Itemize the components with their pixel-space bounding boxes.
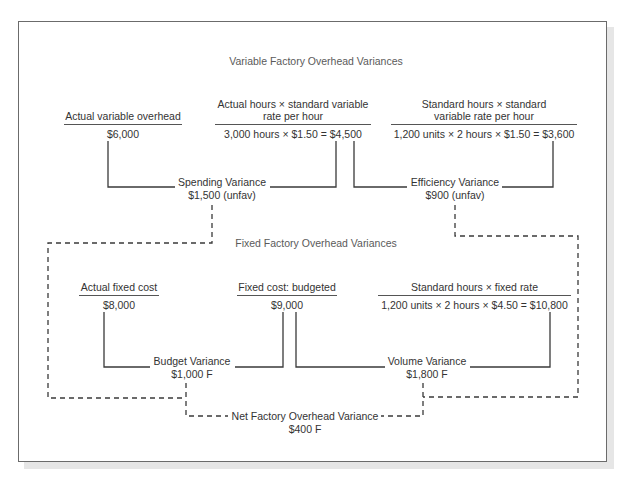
budget-variance-label: Budget Variance [154, 355, 231, 368]
connector-actual-fixed [104, 312, 150, 367]
connector-budget-right [235, 312, 283, 367]
connector-spending-right [270, 141, 336, 187]
connector-volume-right [470, 312, 550, 367]
actual-hours-standard-rate-block: Actual hours × standard variable rate pe… [215, 98, 371, 140]
net-variance-label: Net Factory Overhead Variance [232, 410, 379, 423]
efficiency-variance-label: Efficiency Variance [411, 176, 499, 189]
heading-line-1: Standard hours × standard [391, 98, 577, 110]
actual-hours-standard-rate-value: 3,000 hours × $1.50 = $4,500 [215, 125, 371, 140]
standard-hours-fixed-rate-value: 1,200 units × 2 hours × $4.50 = $10,800 [378, 296, 571, 311]
fixed-cost-budgeted-block: Fixed cost: budgeted $9,000 [237, 281, 337, 311]
volume-variance-amount: $1,800 F [388, 368, 467, 381]
efficiency-variance: Efficiency Variance $900 (unfav) [411, 176, 499, 202]
dashed-budget-path [186, 383, 228, 416]
budget-variance: Budget Variance $1,000 F [154, 355, 231, 381]
variable-section-title: Variable Factory Overhead Variances [229, 55, 403, 67]
connector-efficiency-left [354, 141, 407, 187]
fixed-cost-budgeted-heading: Fixed cost: budgeted [237, 281, 337, 296]
actual-fixed-cost-value: $8,000 [79, 296, 159, 311]
actual-hours-standard-rate-heading: Actual hours × standard variable rate pe… [215, 98, 371, 125]
spending-variance-amount: $1,500 (unfav) [178, 189, 266, 202]
heading-line-2: rate per hour [215, 110, 371, 122]
standard-hours-standard-rate-block: Standard hours × standard variable rate … [391, 98, 577, 140]
actual-variable-overhead-heading: Actual variable overhead [64, 110, 182, 125]
connector-volume-left [296, 312, 385, 367]
actual-variable-overhead-block: Actual variable overhead $6,000 [64, 110, 182, 140]
fixed-cost-budgeted-value: $9,000 [237, 296, 337, 311]
net-variance-amount: $400 F [232, 423, 379, 436]
heading-line-1: Actual hours × standard variable [215, 98, 371, 110]
volume-variance-label: Volume Variance [388, 355, 467, 368]
net-factory-overhead-variance: Net Factory Overhead Variance $400 F [232, 410, 379, 436]
volume-variance: Volume Variance $1,800 F [388, 355, 467, 381]
spending-variance: Spending Variance $1,500 (unfav) [178, 176, 266, 202]
efficiency-variance-amount: $900 (unfav) [411, 189, 499, 202]
budget-variance-amount: $1,000 F [154, 368, 231, 381]
heading-line-2: variable rate per hour [391, 110, 577, 122]
dashed-volume-path [381, 383, 423, 416]
connector-efficiency-right [502, 141, 553, 187]
connector-actual-variable [108, 141, 175, 187]
spending-variance-label: Spending Variance [178, 176, 266, 189]
standard-hours-fixed-rate-heading: Standard hours × fixed rate [378, 281, 571, 296]
actual-fixed-cost-block: Actual fixed cost $8,000 [79, 281, 159, 311]
fixed-section-title: Fixed Factory Overhead Variances [235, 237, 396, 249]
standard-hours-fixed-rate-block: Standard hours × fixed rate 1,200 units … [378, 281, 571, 311]
standard-hours-standard-rate-heading: Standard hours × standard variable rate … [391, 98, 577, 125]
standard-hours-standard-rate-value: 1,200 units × 2 hours × $1.50 = $3,600 [391, 125, 577, 140]
actual-variable-overhead-value: $6,000 [64, 125, 182, 140]
actual-fixed-cost-heading: Actual fixed cost [79, 281, 159, 296]
